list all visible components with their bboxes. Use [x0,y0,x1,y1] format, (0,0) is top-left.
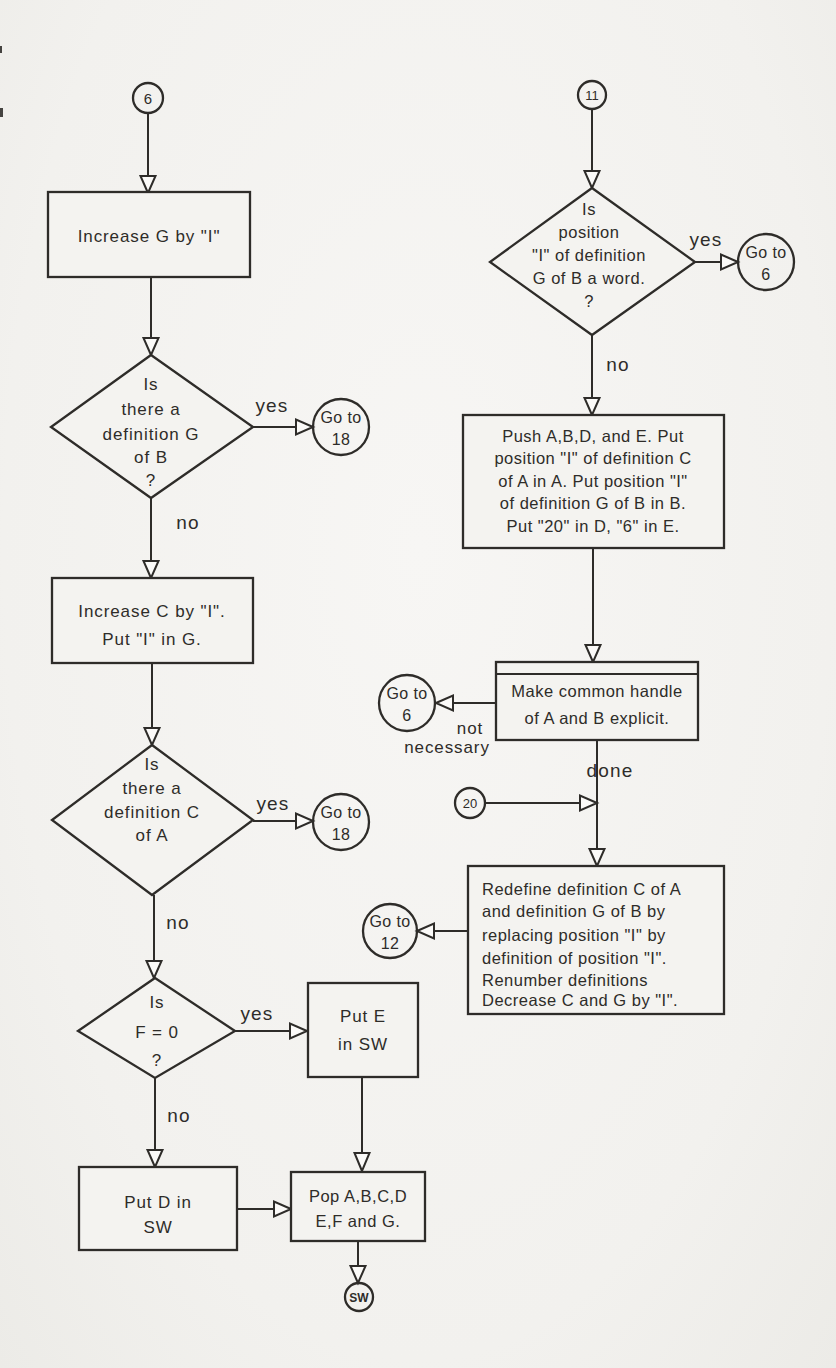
branch-yes-goto-6-a: yes Go to 6 [689,229,794,290]
push-line: of A in A. Put position "I" [498,472,687,490]
arrowhead-right [580,796,597,811]
branch-no-to-push: no [585,335,630,415]
put-d-line: Put D in [124,1193,192,1212]
branch-no-to-decision-f: no [147,895,190,978]
decision-position-word: Is position "I" of definition G of B a w… [490,188,695,335]
branch-yes-to-put-e: yes [235,1003,307,1039]
process-increase-g: Increase G by "I" [48,192,250,277]
decision-line: ? [146,471,156,490]
push-line: of definition G of B in B. [500,494,686,512]
process-push-registers: Push A,B,D, and E. Put position "I" of d… [463,415,724,548]
branch-no-to-increase-c: no [144,498,200,578]
goto-18-b-line: 18 [332,826,351,843]
flowchart-canvas: 6 Increase G by "I" Is there a definitio… [0,0,836,1368]
arrowhead-down [585,171,600,188]
no-label: no [167,1105,191,1126]
yes-label: yes [255,395,288,416]
decision-line: Is [149,993,164,1012]
make-handle-line: Make common handle [511,682,682,700]
arrowhead-down [141,176,156,193]
decision-line: of B [134,448,168,467]
pop-line: Pop A,B,C,D [309,1187,407,1205]
not-necessary-label: necessary [404,738,490,757]
decision-definition-c-of-a: Is there a definition C of A [52,745,253,895]
goto-12-line: 12 [381,935,400,952]
decision-line: Is [143,375,158,394]
decision-line: G of B a word. [533,269,645,287]
process-pop-registers: Pop A,B,C,D E,F and G. [291,1172,425,1241]
arrowhead-right [296,814,313,829]
yes-label: yes [689,229,722,250]
yes-label: yes [256,793,289,814]
decision-line: Is [582,200,596,218]
arrowhead-down [144,561,159,578]
arrow-11-to-decision-word [585,109,600,188]
decision-line: there a [121,400,180,419]
decision-definition-g-of-b: Is there a definition G of B ? [51,355,253,498]
decision-line: F = 0 [135,1023,179,1042]
no-label: no [176,512,200,533]
scanned-flowchart-page: 6 Increase G by "I" Is there a definitio… [0,0,836,1368]
goto-6-a-line: Go to [745,244,786,261]
arrowhead-down [147,961,162,978]
arrowhead-down [586,645,601,662]
goto-6-a-line: 6 [761,266,770,283]
not-necessary-label: not [457,719,483,738]
goto-18-a-line: 18 [332,431,351,448]
process-put-d-in-sw: Put D in SW [79,1167,237,1250]
pop-line: E,F and G. [316,1212,401,1230]
arrowhead-left [436,696,453,711]
decision-line: ? [584,292,594,310]
redefine-line: Decrease C and G by "I". [482,991,678,1009]
arrow-6-to-increase-g [141,113,156,193]
decision-line: definition G [103,425,200,444]
redefine-line: definition of position "I". [482,949,667,967]
arrowhead-down [148,1150,163,1167]
connector-11-label: 11 [585,88,599,103]
arrowhead-right [721,255,738,270]
redefine-line: replacing position "I" by [482,926,666,944]
put-e-line: Put E [340,1007,386,1026]
branch-not-necessary-goto-6-b: Go to 6 not necessary [379,675,496,757]
process-increase-c: Increase C by "I". Put "I" in G. [52,578,253,663]
process-increase-c-line: Put "I" in G. [102,630,201,649]
branch-to-goto-12: Go to 12 [363,904,468,958]
redefine-line: and definition G of B by [482,902,666,920]
goto-12-line: Go to [369,913,410,930]
arrowhead-right [296,420,313,435]
arrowhead-down [590,849,605,866]
connector-6-label: 6 [144,90,152,107]
process-put-e-in-sw: Put E in SW [308,983,418,1077]
connector-20: 20 [455,788,597,818]
goto-18-a-line: Go to [320,409,361,426]
redefine-line: Redefine definition C of A [482,880,681,898]
make-handle-line: of A and B explicit. [525,709,670,727]
arrowhead-right [290,1024,307,1039]
decision-line: there a [122,779,181,798]
goto-6-b-line: Go to [386,685,427,702]
arrow-push-to-make-handle [586,548,601,662]
decision-line: ? [152,1051,162,1070]
arrowhead-down [145,728,160,745]
put-e-line: in SW [338,1035,388,1054]
arrowhead-down [144,338,159,355]
branch-no-to-put-d: no [148,1078,191,1167]
process-redefine-definitions: Redefine definition C of A and definitio… [468,866,724,1014]
connector-sw-label: SW [349,1291,369,1305]
decision-line: of A [136,826,169,845]
arrowhead-down [351,1266,366,1283]
goto-6-b-line: 6 [402,707,411,724]
push-line: position "I" of definition C [494,449,691,467]
redefine-line: Renumber definitions [482,971,648,989]
decision-f-equals-0: Is F = 0 ? [78,978,235,1078]
no-label: no [166,912,190,933]
arrow-pop-to-sw [351,1241,366,1283]
decision-line: position [559,223,620,241]
arrowhead-left [417,924,434,939]
branch-yes-goto-18-b: yes Go to 18 [253,793,369,850]
scan-artifact [0,46,2,53]
arrow-increase-c-to-decision-c [145,663,160,745]
arrowhead-down [355,1153,370,1171]
subroutine-make-handle: Make common handle of A and B explicit. [496,662,698,740]
arrow-put-e-to-pop [355,1077,370,1171]
